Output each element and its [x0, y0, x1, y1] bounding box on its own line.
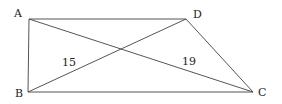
segment-ab	[28, 19, 29, 92]
vertex-label-b: B	[15, 88, 23, 99]
diagram-canvas: A B C D 15 19	[0, 0, 282, 104]
vertex-label-d: D	[193, 9, 202, 20]
vertex-label-a: A	[14, 8, 22, 19]
measurement-bd: 15	[62, 57, 76, 68]
measurement-ac: 19	[182, 56, 196, 67]
diagram-lines	[0, 0, 282, 104]
vertex-label-c: C	[258, 87, 266, 98]
diagonal-bd	[28, 19, 186, 92]
